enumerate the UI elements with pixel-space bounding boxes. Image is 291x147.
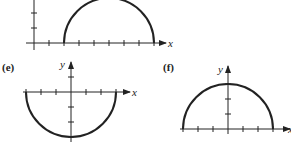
panel-e: (e) x y bbox=[2, 58, 137, 142]
y-axis-label: y bbox=[59, 58, 65, 70]
figure: x (e) x y (f) x y bbox=[0, 0, 291, 147]
x-axis-label: x bbox=[131, 86, 137, 98]
panel-label: (f) bbox=[163, 61, 174, 74]
panel-top: x bbox=[26, 0, 173, 50]
x-axis-label: x bbox=[287, 123, 291, 135]
y-axis-label: y bbox=[217, 63, 223, 75]
x-axis-label: x bbox=[167, 37, 173, 49]
panel-f: (f) x y bbox=[163, 61, 291, 135]
semicircle-curve bbox=[64, 0, 154, 43]
panel-label: (e) bbox=[2, 61, 15, 74]
